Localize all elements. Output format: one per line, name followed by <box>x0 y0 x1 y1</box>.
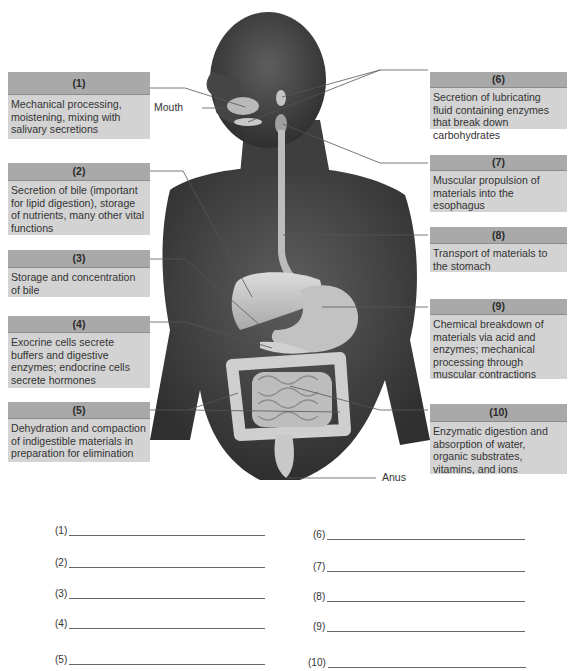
mouth-label: Mouth <box>154 101 183 113</box>
function-box-8: (8) Transport of materials to the stomac… <box>430 227 567 272</box>
answer-blank[interactable] <box>69 523 265 536</box>
box-description: Chemical breakdown of materials via acid… <box>430 315 567 384</box>
answer-line-10[interactable]: (10) <box>308 655 526 668</box>
answer-blank[interactable] <box>328 655 526 668</box>
box-description: Dehydration and compaction of indigestib… <box>8 419 150 463</box>
box-number: (1) <box>8 72 150 95</box>
box-number: (6) <box>430 72 567 88</box>
answer-line-6[interactable]: (6) <box>313 527 525 540</box>
box-number: (10) <box>430 404 567 422</box>
function-box-10: (10) Enzymatic digestion and absorption … <box>430 404 567 474</box>
function-box-5: (5) Dehydration and compaction of indige… <box>8 402 150 462</box>
function-box-2: (2) Secretion of bile (important for lip… <box>8 163 150 235</box>
answer-number: (3) <box>55 588 67 599</box>
answer-number: (10) <box>308 657 326 668</box>
answer-line-3[interactable]: (3) <box>55 586 265 599</box>
answer-number: (2) <box>55 557 67 568</box>
answer-line-4[interactable]: (4) <box>55 616 265 629</box>
answer-blank[interactable] <box>327 559 525 572</box>
box-number: (4) <box>8 316 150 333</box>
function-box-4: (4) Exocrine cells secrete buffers and d… <box>8 316 150 388</box>
box-description: Enzymatic digestion and absorption of wa… <box>430 422 567 478</box>
answer-blank[interactable] <box>327 527 525 540</box>
anus-label: Anus <box>382 471 406 483</box>
face-profile <box>207 72 240 124</box>
box-number: (9) <box>430 299 567 315</box>
answer-blank[interactable] <box>69 586 265 599</box>
answer-line-2[interactable]: (2) <box>55 555 265 568</box>
box-description: Secretion of lubricating fluid containin… <box>430 88 567 144</box>
function-box-9: (9) Chemical breakdown of materials via … <box>430 299 567 379</box>
answer-blank[interactable] <box>69 616 265 629</box>
function-box-3: (3) Storage and concentration of bile <box>8 250 150 297</box>
function-box-6: (6) Secretion of lubricating fluid conta… <box>430 72 567 129</box>
answer-number: (8) <box>313 591 325 602</box>
box-number: (3) <box>8 250 150 268</box>
answer-line-1[interactable]: (1) <box>55 523 265 536</box>
answer-blank[interactable] <box>327 589 525 602</box>
box-description: Transport of materials to the stomach <box>430 244 567 275</box>
box-number: (8) <box>430 227 567 244</box>
box-number: (2) <box>8 163 150 181</box>
box-description: Secretion of bile (important for lipid d… <box>8 181 150 237</box>
answer-number: (5) <box>55 654 67 665</box>
answer-line-7[interactable]: (7) <box>313 559 525 572</box>
answer-blank[interactable] <box>69 652 265 665</box>
answer-number: (1) <box>55 525 67 536</box>
box-description: Storage and concentration of bile <box>8 268 150 299</box>
function-box-7: (7) Muscular propulsion of materials int… <box>430 155 567 212</box>
box-description: Muscular propulsion of materials into th… <box>430 171 567 215</box>
answer-number: (6) <box>313 529 325 540</box>
box-number: (7) <box>430 155 567 171</box>
box-description: Mechanical processing, moistening, mixin… <box>8 95 150 139</box>
answer-line-8[interactable]: (8) <box>313 589 525 602</box>
box-number: (5) <box>8 402 150 419</box>
answer-number: (9) <box>313 621 325 632</box>
answer-blank[interactable] <box>327 619 525 632</box>
function-box-1: (1) Mechanical processing, moistening, m… <box>8 72 150 139</box>
box-description: Exocrine cells secrete buffers and diges… <box>8 333 150 389</box>
answer-blank[interactable] <box>69 555 265 568</box>
answer-number: (4) <box>55 618 67 629</box>
parotid-gland-shape <box>276 90 286 106</box>
answer-line-9[interactable]: (9) <box>313 619 525 632</box>
answer-number: (7) <box>313 561 325 572</box>
answer-line-5[interactable]: (5) <box>55 652 265 665</box>
